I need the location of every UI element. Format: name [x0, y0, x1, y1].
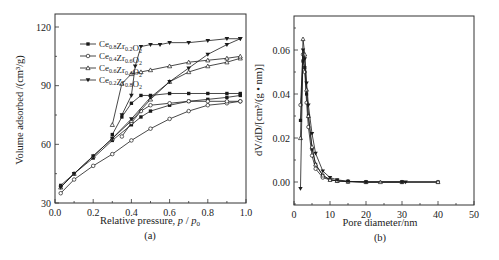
filled-down-triangle-marker-icon	[205, 53, 210, 57]
panel-a-series-Ce0.4Zr0.6O2	[59, 100, 242, 195]
panel-a-x-axis-label: Relative pressure, p / p0	[100, 215, 201, 228]
panel-b-y-axis-label: dV/dD/[cm³/(g • nm)]	[253, 64, 265, 156]
open-triangle-marker-icon	[305, 88, 309, 92]
panel-a-isotherm-chart: 0.00.20.40.60.81.0306090120 Ce0.8Zr0.2O2…	[14, 14, 252, 242]
panel-b-pore-distribution-chart: 010203040500.000.020.040.06 Pore diamete…	[253, 16, 479, 244]
panel-b-series	[298, 37, 440, 191]
open-circle-marker-icon	[149, 103, 153, 107]
figure: 0.00.20.40.60.81.0306090120 Ce0.8Zr0.2O2…	[0, 0, 499, 260]
panel-b-y-tick-label: 0.06	[273, 45, 291, 56]
chart-canvas: 0.00.20.40.60.81.0306090120 Ce0.8Zr0.2O2…	[0, 0, 499, 260]
panel-a-axis-ticks: 0.00.20.40.60.81.0306090120	[36, 22, 252, 219]
open-circle-marker-icon	[187, 100, 191, 104]
panel-b-y-tick-label: 0.04	[273, 89, 291, 100]
filled-square-marker-icon	[168, 92, 171, 95]
filled-square-marker-icon	[187, 92, 190, 95]
panel-b-x-tick-label: 40	[433, 209, 443, 220]
filled-square-marker-icon	[206, 92, 209, 95]
open-circle-marker-icon	[111, 152, 115, 156]
open-circle-marker-icon	[314, 167, 317, 170]
open-triangle-marker-icon	[238, 54, 242, 58]
panel-b-x-axis-label: Pore diameter/nm	[343, 217, 418, 228]
legend-label: Ce0.2Zr0.8O2	[99, 75, 142, 90]
open-circle-marker-icon	[59, 191, 63, 195]
open-circle-marker-icon	[120, 135, 124, 139]
open-circle-marker-icon	[168, 101, 172, 105]
panel-b-x-tick-label: 10	[325, 209, 335, 220]
filled-down-triangle-marker-icon	[225, 43, 230, 47]
open-circle-marker-icon	[206, 100, 210, 104]
legend-item: Ce0.4Zr0.6O2	[80, 51, 142, 66]
filled-square-marker-icon	[149, 109, 152, 112]
panel-b-x-tick-label: 0	[292, 209, 297, 220]
filled-down-triangle-marker-icon	[298, 187, 302, 191]
panel-a-caption: (a)	[144, 230, 156, 242]
panel-b-series-Ce0.6Zr0.4O2	[298, 37, 440, 184]
panel-a-x-tick-label: 1.0	[240, 207, 253, 218]
open-circle-marker-icon	[238, 100, 242, 104]
legend-item: Ce0.6Zr0.4O2	[80, 63, 142, 78]
filled-down-triangle-marker-icon	[129, 94, 134, 98]
panel-b-y-tick-label: 0.00	[273, 177, 291, 188]
open-circle-marker-icon	[91, 164, 95, 168]
panel-a-legend: Ce0.8Zr0.2O2Ce0.4Zr0.6O2Ce0.6Zr0.4O2Ce0.…	[80, 39, 142, 90]
filled-down-triangle-marker-icon	[186, 66, 191, 70]
open-triangle-marker-icon	[298, 136, 302, 140]
panel-a-series-Ce0.2Zr0.8O2	[58, 37, 242, 190]
open-circle-marker-icon	[149, 127, 153, 131]
panel-a-y-tick-label: 30	[41, 198, 51, 209]
filled-square-marker-icon	[225, 96, 228, 99]
legend-item: Ce0.2Zr0.8O2	[80, 75, 142, 90]
open-circle-marker-icon	[225, 100, 229, 104]
open-circle-marker-icon	[72, 178, 76, 182]
panel-b-x-tick-label: 50	[469, 209, 479, 220]
panel-a-series	[58, 37, 242, 195]
filled-square-marker-icon	[130, 102, 133, 105]
open-triangle-marker-icon	[110, 123, 114, 127]
panel-a-x-tick-label: 0.8	[202, 207, 215, 218]
panel-a-plot-frame	[55, 14, 246, 203]
panel-b-caption: (b)	[374, 232, 387, 244]
panel-a-y-axis-label: Volume adsorbed /(cm³/g)	[14, 55, 26, 165]
panel-a-y-tick-label: 120	[36, 22, 51, 33]
panel-b-y-tick-label: 0.02	[273, 133, 291, 144]
open-circle-marker-icon	[168, 117, 172, 121]
panel-a-x-tick-label: 0.2	[87, 207, 100, 218]
panel-a-y-tick-label: 90	[41, 80, 51, 91]
open-circle-marker-icon	[187, 109, 191, 113]
filled-square-marker-icon	[139, 94, 142, 97]
filled-square-marker-icon	[225, 92, 228, 95]
panel-a-x-tick-label: 0.0	[49, 207, 62, 218]
panel-a-series-Ce0.6Zr0.4O2	[59, 54, 243, 189]
open-circle-marker-icon	[206, 103, 210, 107]
open-circle-marker-icon	[130, 139, 134, 143]
filled-square-marker-icon	[139, 115, 142, 118]
open-triangle-marker-icon	[301, 37, 305, 41]
open-circle-marker-icon	[86, 54, 90, 58]
filled-square-marker-icon	[239, 92, 242, 95]
legend-item: Ce0.8Zr0.2O2	[80, 39, 142, 54]
panel-a-y-tick-label: 60	[41, 139, 51, 150]
filled-square-marker-icon	[86, 42, 89, 45]
